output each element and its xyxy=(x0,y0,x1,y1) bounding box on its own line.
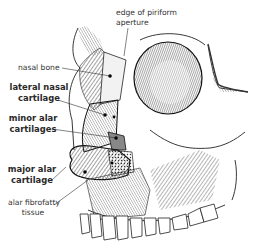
label-edge-of-piriform-aperture: edge of piriform aperture xyxy=(116,8,177,28)
label-major-alar-cartilage: major alar cartilage xyxy=(6,164,58,186)
zygomatic-edge xyxy=(208,44,248,92)
label-minor-alar-cartilages: minor alar cartilages xyxy=(4,113,62,135)
zygomatic-hatch xyxy=(212,70,240,92)
label-alar-fibrofatty-tissue: alar fibrofatty tissue xyxy=(8,198,58,218)
minor-alar-shape xyxy=(108,132,126,150)
orbit-inner xyxy=(150,60,190,104)
cheek-shading xyxy=(150,150,220,210)
upper-hatch xyxy=(78,26,104,56)
label-lateral-nasal-cartilage: lateral nasal cartilage xyxy=(8,82,70,104)
nasal-bone-shape xyxy=(100,52,126,104)
label-nasal-bone: nasal bone xyxy=(18,63,60,73)
